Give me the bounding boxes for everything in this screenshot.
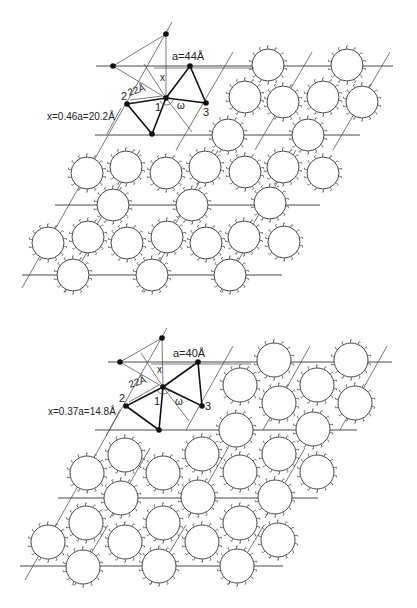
annotation-labels: a=40Å 22Å x=0.37a=14.8Å x ω 1 2 3 bbox=[48, 347, 211, 417]
particle bbox=[94, 186, 132, 224]
point-1-label: 1 bbox=[155, 101, 161, 113]
particle bbox=[101, 478, 141, 518]
lattice-point-p2 bbox=[123, 403, 129, 409]
particle bbox=[66, 503, 106, 543]
particle bbox=[148, 218, 186, 256]
particle bbox=[304, 154, 342, 192]
particle bbox=[147, 154, 185, 192]
particle bbox=[63, 547, 103, 587]
lattice-constant-label: a=40Å bbox=[173, 347, 206, 359]
top-panel-lattice-44A: a=44Å 22Å x=0.46a=20.2Å x ω 1 2 3 bbox=[22, 22, 393, 294]
distance-label: 22Å bbox=[127, 373, 148, 390]
particle bbox=[293, 409, 333, 449]
particle bbox=[28, 522, 68, 562]
particle bbox=[133, 256, 171, 294]
particle bbox=[186, 148, 224, 186]
annotation-labels: a=44Å 22Å x=0.46a=20.2Å x ω 1 2 3 bbox=[47, 50, 209, 122]
particle bbox=[265, 223, 303, 261]
particle bbox=[105, 522, 145, 562]
particle bbox=[139, 546, 179, 586]
particle bbox=[343, 83, 381, 121]
particle bbox=[264, 83, 302, 121]
particle bbox=[259, 434, 299, 474]
particle bbox=[225, 218, 263, 256]
particle bbox=[143, 503, 183, 543]
particle bbox=[331, 340, 371, 380]
lattice-figure: a=44Å 22Å x=0.46a=20.2Å x ω 1 2 3 a=40Å … bbox=[0, 0, 417, 608]
particle bbox=[226, 78, 264, 116]
particle bbox=[217, 546, 257, 586]
particle bbox=[178, 477, 218, 517]
particle bbox=[297, 452, 337, 492]
particle bbox=[107, 148, 145, 186]
particle bbox=[211, 256, 249, 294]
lattice-point-center-1 bbox=[160, 384, 166, 390]
lattice-point-right-top bbox=[195, 359, 201, 365]
lattice-point-center-1 bbox=[163, 95, 169, 101]
particle bbox=[249, 46, 287, 84]
distance-label: 22Å bbox=[126, 81, 147, 98]
particle bbox=[254, 340, 294, 380]
particle bbox=[143, 453, 183, 493]
particle bbox=[220, 503, 260, 543]
particle bbox=[335, 383, 375, 423]
point-2-label: 2 bbox=[119, 392, 125, 404]
lattice-constant-label: a=44Å bbox=[172, 50, 205, 62]
offset-label: x=0.37a=14.8Å bbox=[48, 405, 116, 417]
lattice-point-left bbox=[110, 63, 116, 69]
particle bbox=[297, 365, 337, 405]
particle bbox=[220, 365, 260, 405]
particle-circles bbox=[28, 340, 375, 587]
particle bbox=[220, 452, 260, 492]
point-3-label: 3 bbox=[203, 106, 209, 118]
particle bbox=[226, 153, 264, 191]
omega-label: ω bbox=[175, 396, 183, 407]
omega-label: ω bbox=[177, 100, 185, 111]
particle bbox=[182, 522, 222, 562]
particle bbox=[264, 148, 302, 186]
lattice-point-left bbox=[117, 359, 123, 365]
particle bbox=[255, 477, 295, 517]
particle bbox=[258, 520, 298, 560]
particle-circles bbox=[29, 46, 381, 294]
particle bbox=[251, 184, 289, 222]
particle bbox=[209, 116, 247, 154]
particle bbox=[67, 453, 107, 493]
lattice-point-right-top bbox=[187, 63, 193, 69]
point-2-label: 2 bbox=[121, 90, 127, 102]
offset-label: x=0.46a=20.2Å bbox=[47, 110, 115, 122]
lattice-point-bottom bbox=[156, 427, 162, 433]
particle bbox=[304, 78, 342, 116]
lattice-point-bottom bbox=[149, 131, 155, 137]
lattice-point-top bbox=[163, 31, 169, 37]
particle bbox=[69, 218, 107, 256]
particle bbox=[187, 224, 225, 262]
particle bbox=[29, 224, 67, 262]
particle bbox=[259, 383, 299, 423]
bottom-panel-lattice-40A: a=40Å 22Å x=0.37a=14.8Å x ω 1 2 3 bbox=[20, 328, 392, 587]
particle bbox=[68, 154, 106, 192]
particle bbox=[328, 46, 366, 84]
x-symbol-label: x bbox=[160, 72, 165, 83]
lattice-point-top bbox=[159, 335, 165, 341]
particle bbox=[105, 435, 145, 475]
lattice-point-p2 bbox=[124, 101, 130, 107]
particle bbox=[108, 224, 146, 262]
particle bbox=[182, 434, 222, 474]
point-1-label: 1 bbox=[154, 395, 160, 407]
particle bbox=[289, 116, 327, 154]
x-symbol-label: x bbox=[157, 364, 162, 375]
lattice-point-p3 bbox=[203, 100, 209, 106]
bold-triangle-upper bbox=[166, 66, 206, 103]
lattice-point-p3 bbox=[199, 403, 205, 409]
particle bbox=[216, 410, 256, 450]
point-3-label: 3 bbox=[205, 400, 211, 412]
particle bbox=[54, 256, 92, 294]
